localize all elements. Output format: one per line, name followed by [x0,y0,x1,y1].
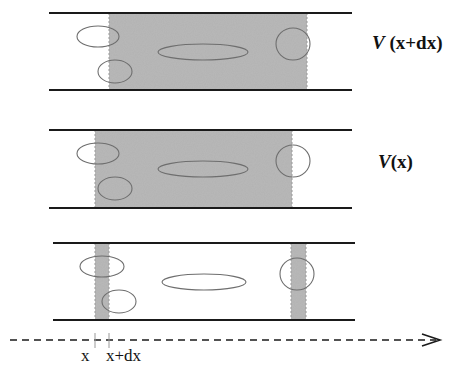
tick-label-x: x [81,346,90,366]
control-volume-region [291,243,306,320]
volume-symbol: V [378,151,391,172]
x-axis [10,333,440,348]
pipe-panel-bottom [53,243,355,320]
volume-argument: (x) [391,151,413,172]
control-volume-diagram [0,0,461,375]
control-volume-region [95,130,292,208]
particle-ellipse [162,274,246,290]
pipe-panel-middle [49,130,352,208]
tick-label-x-plus-dx: x+dx [106,346,141,366]
control-volume-region [95,243,109,320]
volume-argument: (x+dx) [385,32,443,53]
volume-label-x-plus-dx: V (x+dx) [372,32,443,54]
volume-symbol: V [372,32,385,53]
volume-label-x: V(x) [378,151,413,173]
pipe-panel-top [49,13,352,90]
